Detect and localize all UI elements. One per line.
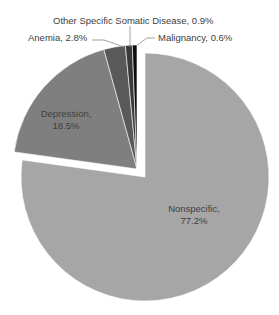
- label-nonspecific-name: Nonspecific,: [168, 203, 220, 214]
- leader-lines: [92, 26, 155, 47]
- pie-slices: [14, 45, 269, 301]
- leader-line-anemia: [92, 40, 124, 47]
- pie-chart: Other Specific Somatic Disease, 0.9% Ane…: [0, 0, 279, 315]
- leader-line-malignancy: [136, 38, 155, 46]
- label-anemia: Anemia, 2.8%: [28, 32, 88, 43]
- label-depression-value: 18.5%: [53, 120, 80, 131]
- label-nonspecific-value: 77.2%: [181, 215, 208, 226]
- label-depression-name: Depression,: [41, 108, 92, 119]
- label-other-specific-somatic-disease: Other Specific Somatic Disease, 0.9%: [53, 15, 214, 26]
- label-malignancy: Malignancy, 0.6%: [158, 32, 233, 43]
